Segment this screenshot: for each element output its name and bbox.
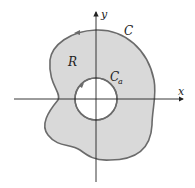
- inner-curve-subscript: a: [118, 77, 123, 86]
- x-axis-label: x: [178, 85, 185, 98]
- outer-curve-label: C: [124, 24, 133, 38]
- diagram-canvas: y x C R C a: [0, 0, 195, 188]
- y-axis-label: y: [100, 8, 108, 21]
- region-label: R: [67, 55, 77, 69]
- region-r: [45, 30, 155, 160]
